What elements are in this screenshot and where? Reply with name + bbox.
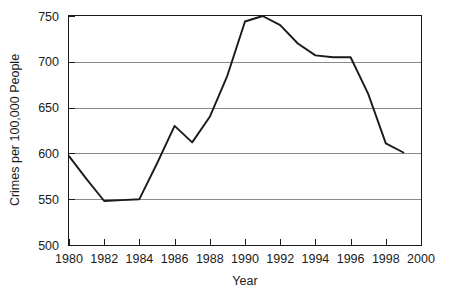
x-tick-label-1998: 1998 <box>372 252 400 266</box>
x-tick-label-1994: 1994 <box>301 252 329 266</box>
x-tick-label-1986: 1986 <box>161 252 189 266</box>
x-tick-label-1982: 1982 <box>90 252 118 266</box>
x-tick-label-2000: 2000 <box>407 252 435 266</box>
x-tick-label-1990: 1990 <box>231 252 259 266</box>
y-tick-label-750: 750 <box>38 10 59 24</box>
chart-canvas: 1980198219841986198819901992199419961998… <box>0 0 453 294</box>
x-tick-label-1980: 1980 <box>55 252 83 266</box>
x-axis-title: Year <box>232 274 257 288</box>
x-tick-label-1992: 1992 <box>266 252 294 266</box>
crime-rate-line-chart: 1980198219841986198819901992199419961998… <box>0 0 453 294</box>
x-tick-label-1984: 1984 <box>125 252 153 266</box>
x-tick-label-1988: 1988 <box>196 252 224 266</box>
x-axis-tick-labels: 1980198219841986198819901992199419961998… <box>55 252 435 266</box>
y-tick-label-550: 550 <box>38 193 59 207</box>
y-tick-label-500: 500 <box>38 239 59 253</box>
y-tick-label-650: 650 <box>38 101 59 115</box>
y-tick-label-600: 600 <box>38 147 59 161</box>
y-axis-title: Crimes per 100,000 People <box>8 54 22 206</box>
x-tick-label-1996: 1996 <box>337 252 365 266</box>
y-tick-label-700: 700 <box>38 55 59 69</box>
